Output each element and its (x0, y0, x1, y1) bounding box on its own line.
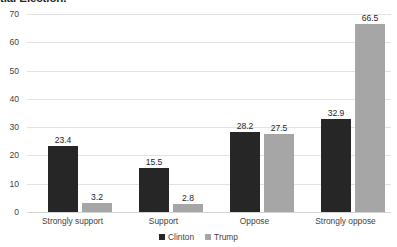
bar-value-clinton-support: 15.5 (146, 157, 163, 167)
legend-label-trump: Trump (214, 232, 238, 242)
bar-value-clinton-strongly-support: 23.4 (55, 135, 72, 145)
chart-title: tial Election. (0, 0, 66, 4)
bar-clinton-oppose[interactable] (230, 132, 260, 212)
legend-item-clinton[interactable]: Clinton (159, 232, 194, 242)
bar-group-oppose: 28.2 27.5 (209, 14, 300, 212)
legend-item-trump[interactable]: Trump (205, 232, 238, 242)
y-tick-20: 20 (0, 150, 19, 160)
legend-swatch-clinton-icon (159, 234, 165, 240)
bar-clinton-support[interactable] (139, 168, 169, 212)
y-tick-70: 70 (0, 9, 19, 19)
x-category-strongly-oppose: Strongly oppose (300, 216, 391, 226)
bar-trump-support[interactable] (173, 204, 203, 212)
bar-group-strongly-support: 23.4 3.2 (27, 14, 118, 212)
bar-value-trump-strongly-oppose: 66.5 (362, 13, 379, 23)
bar-trump-strongly-support[interactable] (82, 203, 112, 212)
bar-value-clinton-oppose: 28.2 (237, 121, 254, 131)
plot-area: 70 60 50 40 30 20 10 0 23.4 3.2 15.5 2.8… (27, 14, 391, 212)
bar-clinton-strongly-support[interactable] (48, 146, 78, 212)
bar-value-trump-support: 2.8 (182, 193, 194, 203)
bar-group-strongly-oppose: 32.9 66.5 (300, 14, 391, 212)
bar-value-trump-strongly-support: 3.2 (91, 192, 103, 202)
y-tick-10: 10 (0, 179, 19, 189)
bar-group-support: 15.5 2.8 (118, 14, 209, 212)
bar-value-trump-oppose: 27.5 (271, 123, 288, 133)
y-tick-30: 30 (0, 122, 19, 132)
x-category-support: Support (118, 216, 209, 226)
chart-legend: Clinton Trump (0, 232, 397, 242)
bar-value-clinton-strongly-oppose: 32.9 (328, 108, 345, 118)
y-tick-40: 40 (0, 94, 19, 104)
axis-baseline (27, 212, 391, 213)
bar-trump-oppose[interactable] (264, 134, 294, 212)
x-category-strongly-support: Strongly support (27, 216, 118, 226)
x-category-oppose: Oppose (209, 216, 300, 226)
y-tick-0: 0 (0, 207, 19, 217)
y-tick-60: 60 (0, 37, 19, 47)
bar-trump-strongly-oppose[interactable] (355, 24, 385, 212)
legend-label-clinton: Clinton (168, 232, 194, 242)
bar-clinton-strongly-oppose[interactable] (321, 119, 351, 212)
legend-swatch-trump-icon (205, 234, 211, 240)
y-tick-50: 50 (0, 66, 19, 76)
